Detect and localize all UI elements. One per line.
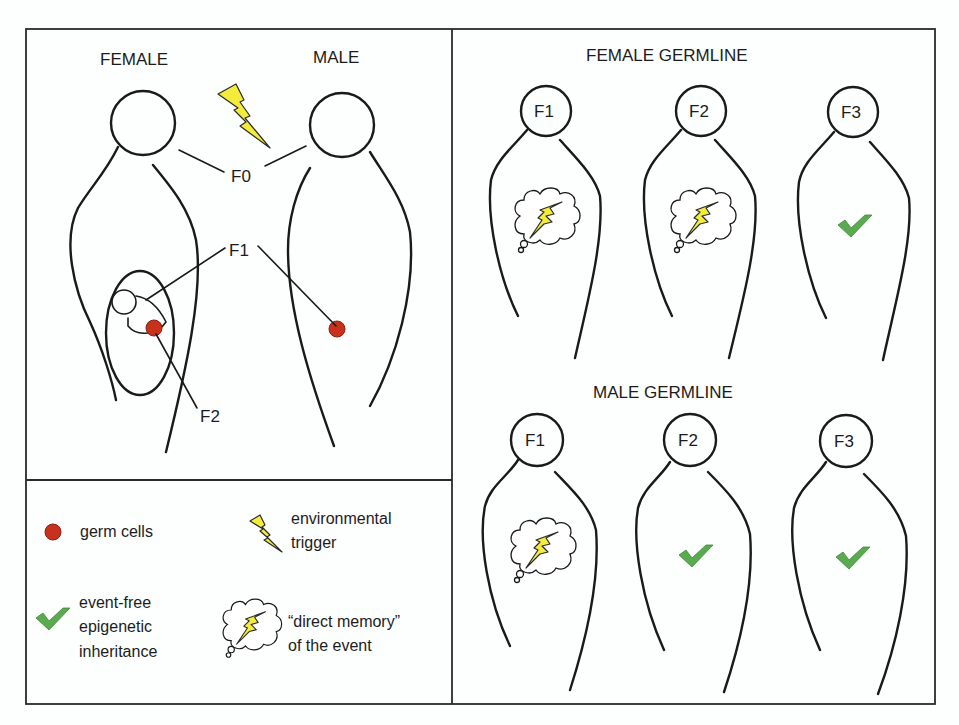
fetus-head: [112, 290, 136, 314]
lightning-bolt-icon: [218, 84, 270, 148]
generation-label: F3: [841, 103, 861, 122]
epigenetic-inheritance-diagram: FEMALE MALE F0: [0, 0, 959, 725]
male-label: MALE: [313, 48, 359, 67]
environmental-trigger-icon: [250, 515, 282, 552]
direct-memory-icon: [511, 518, 576, 583]
check-icon: [838, 215, 872, 237]
legend-event-free-line1: event-free: [79, 594, 151, 611]
female-germline-panel: FEMALE GERMLINE F1 F2 F3: [490, 46, 910, 360]
legend-event-free-line2: epigenetic: [79, 618, 152, 635]
male-germline-panel: MALE GERMLINE F1 F2 F3: [483, 383, 907, 694]
generation-label: F2: [689, 102, 709, 121]
female-germline-f3: F3: [798, 87, 910, 360]
male-germline-f3: F3: [792, 415, 906, 694]
germ-cell-icon: [45, 524, 61, 540]
generation-label: F3: [834, 432, 854, 451]
female-germline-f2: F2: [644, 86, 756, 358]
generation-label: F1: [534, 102, 554, 121]
legend: germ cells environmental trigger event-f…: [36, 510, 400, 660]
f1-label: F1: [229, 241, 249, 260]
legend-event-free-line3: inheritance: [79, 643, 157, 660]
male-germline-f1: F1: [483, 414, 597, 690]
direct-memory-icon: [671, 188, 736, 253]
male-germline-title: MALE GERMLINE: [593, 383, 733, 402]
legend-direct-memory-line2: of the event: [288, 637, 372, 654]
male-germline-f2: F2: [636, 414, 750, 692]
check-icon: [36, 608, 70, 630]
germ-cell-male: [329, 321, 345, 337]
direct-memory-icon: [515, 188, 580, 253]
generation-label: F2: [678, 431, 698, 450]
direct-memory-cloud-icon: [223, 599, 281, 657]
generation-label: F1: [525, 431, 545, 450]
legend-environmental-line2: trigger: [291, 534, 337, 551]
female-figure: [70, 91, 198, 452]
f0-label: F0: [231, 167, 251, 186]
female-germline-f1: F1: [490, 86, 601, 358]
outer-frame: [26, 29, 935, 704]
parents-panel: FEMALE MALE F0: [70, 48, 411, 452]
legend-germ-cells: germ cells: [80, 523, 153, 540]
germ-cell-fetus: [146, 320, 162, 336]
f2-label: F2: [200, 407, 220, 426]
female-label: FEMALE: [100, 50, 168, 69]
legend-environmental-line1: environmental: [291, 510, 392, 527]
legend-direct-memory-line1: “direct memory”: [288, 613, 400, 630]
female-germline-title: FEMALE GERMLINE: [586, 46, 748, 65]
check-icon: [679, 545, 713, 567]
check-icon: [836, 547, 870, 569]
